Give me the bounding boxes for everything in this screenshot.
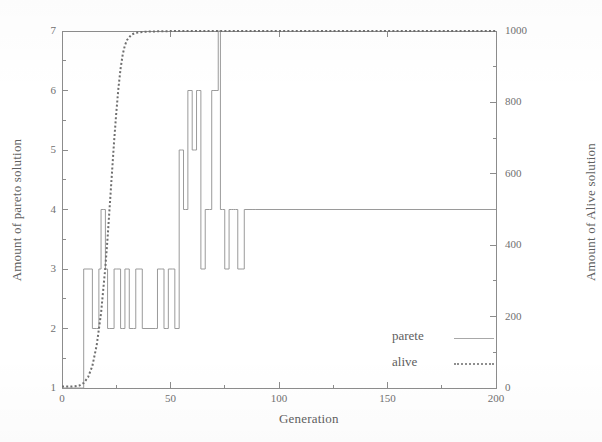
y-left-tick-4: 4 <box>34 203 56 215</box>
chart-legend: parete alive <box>392 326 496 378</box>
y-left-tick-2: 2 <box>34 322 56 334</box>
y-right-tick-1000: 1000 <box>505 24 539 36</box>
plot-canvas <box>0 0 602 442</box>
y-right-tick-200: 200 <box>505 310 539 322</box>
y-left-tick-5: 5 <box>34 143 56 155</box>
y-right-tick-600: 600 <box>505 167 539 179</box>
legend-line-sample-dotted <box>454 363 494 365</box>
x-tick-0: 0 <box>42 392 82 404</box>
y-axis-left-title: Amount of pareto solution <box>9 139 25 282</box>
x-tick-50: 50 <box>151 392 191 404</box>
legend-label-parete: parete <box>392 328 424 344</box>
x-tick-200: 200 <box>476 392 516 404</box>
x-tick-150: 150 <box>368 392 408 404</box>
y-left-tick-3: 3 <box>34 262 56 274</box>
y-left-tick-6: 6 <box>34 84 56 96</box>
legend-line-sample-solid <box>454 338 494 339</box>
y-right-tick-400: 400 <box>505 238 539 250</box>
figure: Amount of pareto solution Amount of Aliv… <box>0 0 602 442</box>
y-left-tick-7: 7 <box>34 24 56 36</box>
legend-item-alive: alive <box>392 352 496 378</box>
y-right-tick-800: 800 <box>505 95 539 107</box>
y-axis-right-title: Amount of Alive solution <box>583 143 599 281</box>
legend-label-alive: alive <box>392 354 417 370</box>
x-tick-100: 100 <box>259 392 299 404</box>
legend-item-parete: parete <box>392 326 496 352</box>
x-axis-title: Generation <box>279 411 339 427</box>
